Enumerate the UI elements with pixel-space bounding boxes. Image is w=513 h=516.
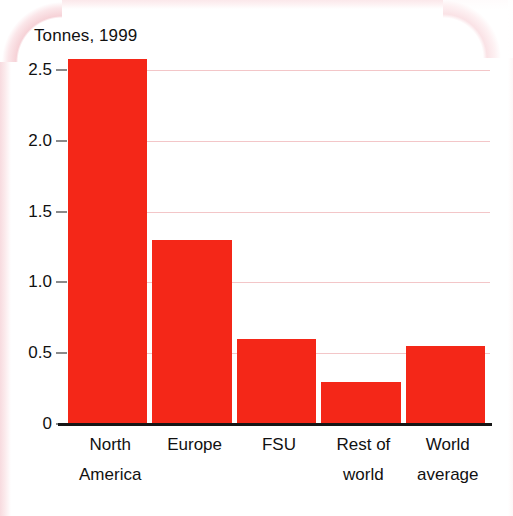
y-tick-mark	[56, 211, 67, 212]
y-tick-label: 2.0	[28, 131, 52, 151]
y-tick-label: 0.5	[28, 343, 52, 363]
x-axis-label-line2: America	[60, 460, 160, 490]
bar-series	[68, 55, 490, 424]
y-tick-label: 2.5	[28, 60, 52, 80]
y-tick-label: 1.5	[28, 202, 52, 222]
x-axis-label-line1: World	[398, 430, 498, 460]
chart-page: Tonnes, 1999 00.51.01.52.02.5 NorthAmeri…	[0, 0, 513, 516]
bar[interactable]	[68, 59, 147, 424]
x-axis-line	[58, 423, 492, 426]
x-axis-label-line2: average	[398, 460, 498, 490]
y-tick-mark	[56, 282, 67, 283]
y-tick-label: 0	[43, 414, 52, 434]
bar-chart: Tonnes, 1999 00.51.01.52.02.5 NorthAmeri…	[0, 0, 513, 516]
chart-title: Tonnes, 1999	[34, 26, 137, 46]
x-axis-labels: NorthAmericaEuropeFSURest ofworldWorldav…	[68, 430, 490, 510]
bar[interactable]	[152, 240, 231, 424]
bar[interactable]	[406, 346, 485, 424]
y-tick-mark	[56, 70, 67, 71]
y-tick-label: 1.0	[28, 272, 52, 292]
y-tick-mark	[56, 353, 67, 354]
bar[interactable]	[321, 382, 400, 424]
x-axis-label: Worldaverage	[398, 430, 498, 490]
y-tick-mark	[56, 140, 67, 141]
bar[interactable]	[237, 339, 316, 424]
